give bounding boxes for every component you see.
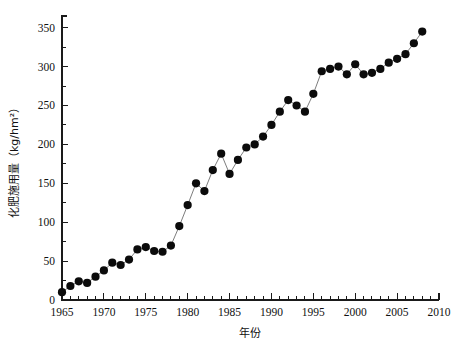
data-point: 2005: 310 bbox=[393, 55, 401, 63]
data-point: 1984: 188 bbox=[217, 150, 225, 158]
data-point: 1991: 242 bbox=[276, 108, 284, 116]
axes bbox=[62, 16, 439, 300]
data-point: 1976: 63 bbox=[150, 247, 158, 255]
y-tick-label: 200 bbox=[38, 138, 56, 150]
data-point: 1998: 300 bbox=[334, 62, 342, 70]
y-tick-label: 350 bbox=[38, 22, 56, 34]
fertilizer-use-chart: 050100150200250300350 196519701975198019… bbox=[0, 0, 456, 347]
data-point: 1969: 30 bbox=[91, 273, 99, 281]
data-point: 1968: 22 bbox=[83, 279, 91, 287]
x-tick-label: 2000 bbox=[344, 306, 367, 318]
data-point: 1975: 68 bbox=[142, 243, 150, 251]
y-tick-label: 50 bbox=[44, 255, 56, 267]
data-point: 2002: 292 bbox=[368, 69, 376, 77]
data-point: 1997: 297 bbox=[326, 65, 334, 73]
y-tick-label: 0 bbox=[49, 294, 55, 306]
data-point: 2006: 316 bbox=[401, 50, 409, 58]
x-tick-label: 1980 bbox=[176, 306, 199, 318]
data-point: 1974: 65 bbox=[133, 245, 141, 253]
data-point: 2000: 303 bbox=[351, 60, 359, 68]
data-point: 1996: 294 bbox=[318, 67, 326, 75]
y-tick-label: 300 bbox=[38, 61, 56, 73]
data-point: 1985: 162 bbox=[225, 170, 233, 178]
data-point: 1993: 250 bbox=[292, 101, 300, 109]
data-point: 1971: 48 bbox=[108, 259, 116, 267]
data-point: 1995: 265 bbox=[309, 90, 317, 98]
data-point: 1999: 290 bbox=[343, 70, 351, 78]
data-point: 2008: 345 bbox=[418, 27, 426, 35]
x-tick-label: 2005 bbox=[386, 306, 409, 318]
data-point: 1989: 210 bbox=[259, 133, 267, 141]
x-tick-labels: 1965197019751980198519901995200020052010 bbox=[51, 306, 451, 318]
data-point: 1982: 140 bbox=[200, 187, 208, 195]
y-tick-label: 100 bbox=[38, 216, 56, 228]
series-line bbox=[62, 32, 422, 293]
x-axis-title: 年份 bbox=[239, 326, 261, 340]
data-point: 2001: 290 bbox=[360, 70, 368, 78]
data-point: 1983: 167 bbox=[209, 166, 217, 174]
data-point: 1992: 257 bbox=[284, 96, 292, 104]
data-point: 1981: 150 bbox=[192, 179, 200, 187]
x-tick-label: 1965 bbox=[51, 306, 74, 318]
data-point: 1967: 24 bbox=[75, 277, 83, 285]
data-point: 2003: 297 bbox=[376, 65, 384, 73]
y-axis-title: 化肥施用量（kg/hm²） bbox=[7, 102, 21, 218]
data-point: 1966: 18 bbox=[66, 282, 74, 290]
data-point: 2007: 330 bbox=[410, 39, 418, 47]
data-point: 1977: 62 bbox=[158, 248, 166, 256]
data-point: 1972: 45 bbox=[117, 261, 125, 269]
y-tick-label: 150 bbox=[38, 177, 56, 189]
chart-canvas: 050100150200250300350 196519701975198019… bbox=[0, 0, 456, 347]
x-tick-label: 1985 bbox=[218, 306, 241, 318]
data-point: 1978: 70 bbox=[167, 241, 175, 249]
data-point: 1980: 122 bbox=[184, 201, 192, 209]
data-point: 1970: 38 bbox=[100, 266, 108, 274]
series-points: 1965: 101966: 181967: 241968: 221969: 30… bbox=[58, 27, 426, 296]
x-tick-label: 1970 bbox=[92, 306, 115, 318]
data-point: 1990: 225 bbox=[267, 121, 275, 129]
series-polyline bbox=[62, 32, 422, 293]
x-tick-label: 1995 bbox=[302, 306, 325, 318]
data-point: 1988: 200 bbox=[251, 140, 259, 148]
data-point: 1973: 52 bbox=[125, 255, 133, 263]
x-tick-label: 1975 bbox=[134, 306, 157, 318]
data-point: 1994: 242 bbox=[301, 108, 309, 116]
x-tick-label: 1990 bbox=[260, 306, 283, 318]
y-tick-labels: 050100150200250300350 bbox=[38, 22, 56, 306]
y-tick-label: 250 bbox=[38, 99, 56, 111]
x-tick-label: 2010 bbox=[428, 306, 451, 318]
data-point: 1965: 10 bbox=[58, 288, 66, 296]
data-point: 1986: 180 bbox=[234, 156, 242, 164]
data-point: 2004: 305 bbox=[385, 59, 393, 67]
data-point: 1987: 196 bbox=[242, 143, 250, 151]
data-point: 1979: 95 bbox=[175, 222, 183, 230]
